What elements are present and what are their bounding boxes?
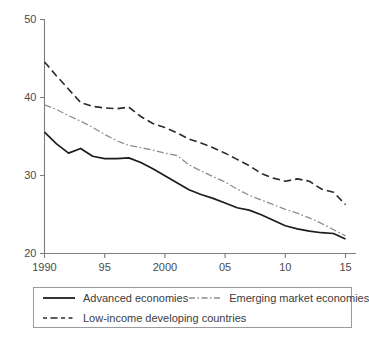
x-tick-label: 15	[339, 261, 351, 273]
x-tick-label: 10	[279, 261, 291, 273]
legend-entry-advanced-economies: Advanced economies	[42, 292, 188, 304]
y-tick-label: 20	[24, 247, 36, 259]
legend-entry-low-income-developing-countries: Low-income developing countries	[42, 312, 246, 324]
legend-label-emerging-market-economies: Emerging market economies	[229, 292, 369, 304]
series-line-emerging-market-economies	[45, 105, 346, 236]
legend-swatch-dash-dot-icon	[188, 293, 222, 303]
x-tick-label: 2000	[153, 261, 177, 273]
legend-entry-emerging-market-economies: Emerging market economies	[188, 292, 369, 304]
series-line-low-income-developing-countries	[45, 62, 346, 205]
chart-legend: Advanced economies Emerging market econo…	[33, 287, 352, 328]
legend-label-advanced-economies: Advanced economies	[83, 292, 188, 304]
series-line-advanced-economies	[45, 132, 346, 239]
x-tick-label: 95	[99, 261, 111, 273]
x-tick-label: 1990	[32, 261, 56, 273]
legend-row-1: Advanced economies Emerging market econo…	[34, 288, 351, 308]
series-group	[45, 62, 346, 239]
y-tick-group: 20304050	[24, 13, 44, 259]
legend-swatch-dashed-icon	[42, 313, 76, 323]
legend-row-2: Low-income developing countries	[34, 308, 351, 328]
legend-swatch-solid-icon	[42, 293, 76, 303]
legend-label-low-income-developing-countries: Low-income developing countries	[83, 312, 246, 324]
x-tick-group: 1990952000051015	[32, 253, 351, 273]
y-tick-label: 50	[24, 13, 36, 25]
y-tick-label: 40	[24, 91, 36, 103]
y-tick-label: 30	[24, 169, 36, 181]
x-tick-label: 05	[219, 261, 231, 273]
